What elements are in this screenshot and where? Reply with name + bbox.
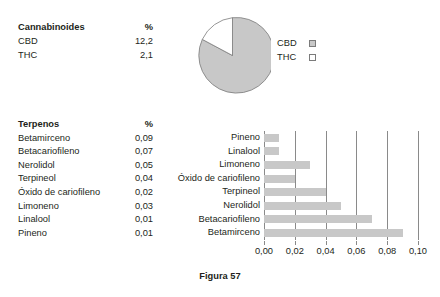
tick-label: 0,10 [409,246,427,257]
column-header-percent: % [145,118,153,132]
row-label: Linalool [18,213,50,227]
bar-row: Betamirceno [160,226,428,240]
table-header-row: Terpenos % [18,118,153,132]
tick-label: 0,00 [255,246,273,257]
pie-legend: CBD THC [277,36,316,64]
row-label: Betacariofileno [18,145,80,159]
bar-category-label: Pineno [160,131,260,145]
table-row: Limoneno 0,03 [18,200,153,214]
figure-root: Cannabinoides % CBD 12,2 THC 2,1 CBD THC [0,0,440,297]
tick-label: 0,02 [286,246,304,257]
tick-label: 0,04 [317,246,335,257]
tick-mark [295,241,296,245]
bar-row: Óxido de cariofileno [160,172,428,186]
row-value: 0,02 [135,186,153,200]
figure-caption: Figura 57 [0,271,440,281]
bar-category-label: Óxido de cariofileno [160,172,260,186]
table-row: THC 2,1 [18,48,153,62]
row-label: Óxido de cariofileno [18,186,100,200]
row-label: Nerolidol [18,159,55,173]
tick-mark [356,241,357,245]
table-row: CBD 12,2 [18,34,153,48]
tick-mark [418,241,419,245]
bar-row: Pineno [160,131,428,145]
row-value: 0,05 [135,159,153,173]
bar-category-label: Linalool [160,145,260,159]
row-value: 12,2 [135,34,153,48]
legend-swatch-icon [309,54,316,61]
row-label: Terpineol [18,172,56,186]
column-header-name: Cannabinoides [18,20,85,34]
row-label: Betamirceno [18,132,70,146]
category-rows: PinenoLinaloolLimonenoÓxido de cariofile… [160,131,428,240]
pie-svg [194,17,271,94]
legend-swatch-icon [309,40,316,47]
row-value: 2,1 [140,48,153,62]
legend-item-cbd: CBD [277,36,316,50]
terpene-table: Terpenos % Betamirceno 0,09 Betacariofil… [18,118,153,240]
bar-row: Linalool [160,145,428,159]
row-value: 0,04 [135,172,153,186]
table-row: Betamirceno 0,09 [18,132,153,146]
bar-row: Limoneno [160,158,428,172]
table-row: Betacariofileno 0,07 [18,145,153,159]
column-header-name: Terpenos [18,118,59,132]
row-value: 0,01 [135,213,153,227]
terpene-bar-chart: PinenoLinaloolLimonenoÓxido de cariofile… [160,131,428,263]
table-row: Linalool 0,01 [18,213,153,227]
column-header-percent: % [145,20,153,34]
tick-mark [387,241,388,245]
bar-category-label: Betacariofileno [160,213,260,227]
table-header-row: Cannabinoides % [18,20,153,34]
row-label: Pineno [18,227,47,241]
bar-category-label: Terpineol [160,185,260,199]
cannabinoid-table: Cannabinoides % CBD 12,2 THC 2,1 [18,20,153,62]
bar-row: Terpineol [160,185,428,199]
tick-mark [326,241,327,245]
tick-label: 0,08 [378,246,396,257]
cannabinoid-pie-chart [194,17,271,94]
bar-category-label: Betamirceno [160,226,260,240]
row-value: 0,03 [135,200,153,214]
table-row: Nerolidol 0,05 [18,159,153,173]
tick-mark [264,241,265,245]
bar-row: Betacariofileno [160,213,428,227]
row-label: CBD [18,34,38,48]
legend-label: THC [277,50,305,64]
table-row: Pineno 0,01 [18,227,153,241]
row-value: 0,01 [135,227,153,241]
table-row: Óxido de cariofileno 0,02 [18,186,153,200]
bar-category-label: Limoneno [160,158,260,172]
row-value: 0,09 [135,132,153,146]
legend-label: CBD [277,36,305,50]
row-label: THC [18,48,37,62]
row-label: Limoneno [18,200,59,214]
row-value: 0,07 [135,145,153,159]
table-row: Terpineol 0,04 [18,172,153,186]
legend-item-thc: THC [277,50,316,64]
tick-label: 0,06 [347,246,365,257]
bar-row: Nerolidol [160,199,428,213]
x-axis-ticks: 0,000,020,040,060,080,10 [264,241,418,259]
bar-category-label: Nerolidol [160,199,260,213]
